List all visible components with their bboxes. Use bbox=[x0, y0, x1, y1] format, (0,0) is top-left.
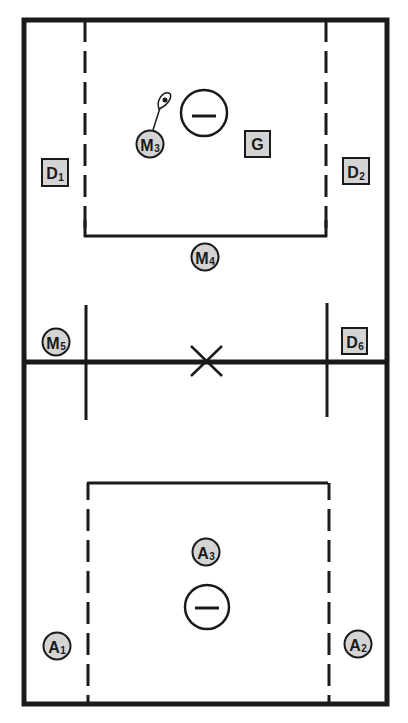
player-M4: M 4 bbox=[192, 244, 219, 271]
player-A1: A 1 bbox=[44, 633, 71, 660]
player-A2: A 2 bbox=[345, 631, 372, 658]
player-D6: D 6 bbox=[342, 328, 367, 354]
svg-text:G: G bbox=[251, 136, 263, 153]
svg-text:3: 3 bbox=[209, 551, 215, 562]
lacrosse-stick-icon bbox=[153, 93, 171, 130]
svg-text:M: M bbox=[46, 335, 59, 352]
player-D1: D 1 bbox=[42, 159, 68, 186]
svg-text:3: 3 bbox=[154, 143, 160, 154]
svg-text:1: 1 bbox=[58, 172, 64, 183]
svg-text:M: M bbox=[195, 250, 208, 267]
bottom-goal-crease bbox=[185, 585, 229, 629]
player-M3: M 3 bbox=[137, 131, 164, 158]
svg-text:6: 6 bbox=[358, 341, 364, 352]
player-M5: M 5 bbox=[43, 329, 70, 356]
top-restraining-box bbox=[84, 20, 327, 237]
ball-icon bbox=[163, 98, 168, 103]
svg-text:D: D bbox=[347, 164, 359, 181]
svg-text:A: A bbox=[197, 545, 209, 562]
svg-text:D: D bbox=[46, 165, 58, 182]
svg-text:4: 4 bbox=[209, 256, 215, 267]
bottom-restraining-box bbox=[87, 483, 329, 704]
player-A3: A 3 bbox=[193, 539, 220, 566]
player-G: G bbox=[245, 131, 270, 157]
svg-text:2: 2 bbox=[359, 171, 365, 182]
svg-text:2: 2 bbox=[361, 643, 367, 654]
svg-text:5: 5 bbox=[60, 341, 66, 352]
svg-text:A: A bbox=[349, 637, 361, 654]
top-goal-crease bbox=[181, 90, 227, 136]
svg-text:M: M bbox=[140, 137, 153, 154]
svg-text:A: A bbox=[48, 639, 60, 656]
player-D2: D 2 bbox=[343, 158, 369, 184]
svg-text:1: 1 bbox=[60, 645, 66, 656]
svg-text:D: D bbox=[346, 334, 358, 351]
lacrosse-field-diagram: M 3 M 4 M 5 A 3 A 1 A 2 G D 1 D 2 bbox=[0, 0, 408, 723]
